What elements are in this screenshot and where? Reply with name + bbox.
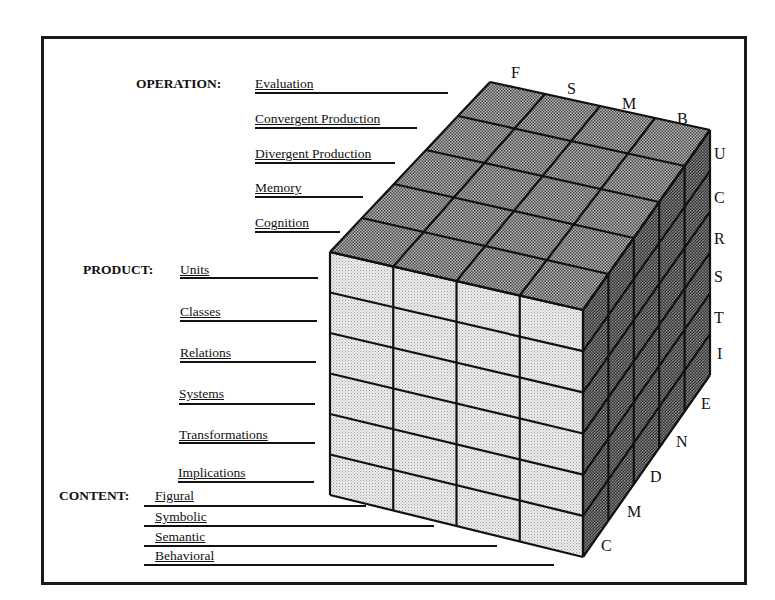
product-units: Units [180,262,209,277]
operation-evaluation: Evaluation [255,76,313,91]
axis-letter-right-R: R [714,231,725,247]
product-systems-leader [179,403,315,405]
operation-memory: Memory [255,180,302,195]
operation-convergent-production: Convergent Production [255,111,380,126]
content-symbolic-leader [144,525,434,527]
operation-memory-leader [255,196,363,198]
content-behavioral: Behavioral [155,548,214,563]
product-category-label: PRODUCT: [83,262,153,277]
product-implications-leader [178,481,314,483]
axis-letter-top-B: B [677,111,688,127]
content-behavioral-leader [144,564,554,566]
operation-cognition-leader [255,231,340,233]
content-figural: Figural [155,488,194,503]
product-transformations-leader [179,442,315,444]
axis-letter-top-S: S [567,81,576,97]
axis-letter-diag-M: M [627,504,641,520]
content-category-label: CONTENT: [59,488,129,503]
axis-letter-right-I: I [717,346,722,362]
content-semantic-leader [144,545,497,547]
axis-letter-diag-D: D [650,469,662,485]
operation-divergent-production: Divergent Production [255,146,371,161]
content-symbolic: Symbolic [155,509,207,524]
axis-letter-right-T: T [714,310,724,326]
axis-letter-diag-N: N [676,434,688,450]
axis-letter-top-M: M [622,96,636,112]
operation-convergent-leader [255,127,417,129]
product-systems: Systems [179,386,224,401]
axis-letter-diag-C: C [601,538,612,554]
product-classes: Classes [180,304,221,319]
product-relations-leader [180,361,316,363]
product-classes-leader [180,320,317,322]
operation-cognition: Cognition [255,215,309,230]
product-implications: Implications [178,465,246,480]
axis-letter-diag-E: E [701,396,711,412]
operation-divergent-leader [255,162,395,164]
axis-letter-right-C: C [714,190,725,206]
cube-diagram [0,0,775,600]
product-units-leader [180,277,318,279]
content-figural-leader [144,505,366,507]
axis-letter-top-F: F [511,65,520,81]
content-semantic: Semantic [155,529,205,544]
operation-category-label: OPERATION: [136,76,221,91]
axis-letter-right-U: U [714,146,726,162]
axis-letter-right-S: S [714,269,723,285]
product-transformations: Transformations [179,427,268,442]
product-relations: Relations [180,345,231,360]
operation-evaluation-leader [255,92,448,94]
